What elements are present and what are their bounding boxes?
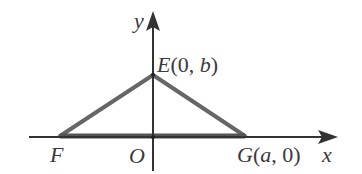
side-fe [60, 75, 153, 136]
y-axis [146, 11, 160, 171]
origin-label: O [129, 143, 145, 168]
point-f-label: F [49, 142, 64, 167]
x-axis-label: x [321, 142, 332, 167]
point-e-dot [151, 73, 155, 77]
point-e-label: E(0, b) [156, 52, 218, 77]
origin-dot [151, 135, 155, 139]
coordinate-diagram: y x O F E(0, b) G(a, 0) [0, 0, 362, 174]
side-eg [153, 75, 245, 136]
y-axis-label: y [132, 8, 144, 33]
point-g-label: G(a, 0) [237, 142, 301, 167]
